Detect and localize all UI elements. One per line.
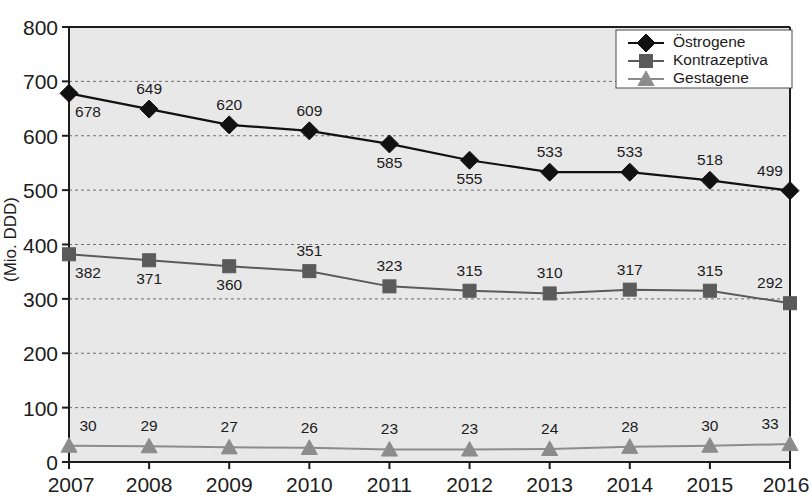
data-point-label: 315 — [457, 262, 483, 279]
data-point-label: 23 — [381, 420, 398, 437]
x-axis-tick-label: 2010 — [286, 473, 333, 496]
data-point-marker — [63, 248, 76, 261]
data-point-label: 351 — [296, 242, 322, 259]
x-axis-tick-label: 2012 — [446, 473, 493, 496]
data-point-label: 24 — [541, 420, 559, 437]
data-point-label: 23 — [461, 420, 478, 437]
legend-label: Gestagene — [673, 69, 749, 86]
x-axis-tick-label: 2009 — [206, 473, 253, 496]
legend-label: Kontrazeptiva — [673, 51, 768, 68]
data-point-label: 30 — [701, 417, 719, 434]
data-point-label: 678 — [75, 103, 101, 120]
y-axis-tick-label: 0 — [46, 451, 58, 474]
data-point-marker — [383, 280, 396, 293]
y-axis-tick-label: 200 — [23, 342, 58, 365]
x-axis-tick-label: 2011 — [367, 473, 412, 496]
y-axis-tick-label: 600 — [23, 125, 58, 148]
data-point-marker — [143, 254, 156, 267]
data-point-label: 609 — [296, 102, 322, 119]
data-point-label: 371 — [136, 270, 162, 287]
y-axis-tick-label: 300 — [23, 288, 58, 311]
y-axis-tick-label: 500 — [23, 179, 58, 202]
data-point-marker — [623, 283, 636, 296]
x-axis-tick-label: 2016 — [763, 473, 810, 496]
data-point-marker — [223, 260, 236, 273]
data-point-label: 533 — [617, 143, 643, 160]
y-axis-tick-label: 100 — [23, 397, 58, 420]
data-point-label: 315 — [697, 262, 723, 279]
y-axis-tick-label: 400 — [23, 234, 58, 257]
data-point-marker — [784, 297, 797, 310]
data-point-label: 518 — [697, 151, 723, 168]
legend-label: Östrogene — [673, 33, 745, 50]
data-point-marker — [543, 287, 556, 300]
x-axis-tick-label: 2007 — [48, 473, 95, 496]
y-axis-title: (Mio. DDD) — [1, 197, 20, 282]
data-point-label: 360 — [216, 276, 242, 293]
data-point-label: 33 — [761, 415, 778, 432]
x-axis-tick-label: 2015 — [687, 473, 734, 496]
data-point-label: 533 — [537, 143, 563, 160]
y-axis-tick-label: 800 — [23, 16, 58, 39]
data-point-marker — [303, 265, 316, 278]
data-point-label: 649 — [136, 80, 162, 97]
chart-container: 0100200300400500600700800(Mio. DDD)20072… — [0, 0, 811, 502]
line-chart: 0100200300400500600700800(Mio. DDD)20072… — [0, 0, 811, 502]
data-point-label: 30 — [79, 417, 97, 434]
x-axis-tick-label: 2013 — [526, 473, 573, 496]
data-point-label: 28 — [621, 418, 638, 435]
data-point-label: 323 — [377, 257, 403, 274]
data-point-label: 29 — [140, 417, 157, 434]
legend-marker-square — [640, 55, 653, 68]
x-axis-tick-label: 2008 — [126, 473, 173, 496]
data-point-label: 499 — [757, 162, 783, 179]
data-point-marker — [463, 284, 476, 297]
x-axis-tick-label: 2014 — [606, 473, 653, 496]
data-point-label: 27 — [221, 418, 238, 435]
data-point-label: 620 — [216, 96, 242, 113]
data-point-label: 292 — [757, 274, 783, 291]
legend: ÖstrogeneKontrazeptivaGestagene — [616, 30, 792, 88]
data-point-label: 555 — [457, 170, 483, 187]
data-point-label: 585 — [377, 154, 403, 171]
data-point-label: 26 — [301, 419, 318, 436]
data-point-label: 317 — [617, 261, 643, 278]
data-point-marker — [703, 284, 716, 297]
y-axis-tick-label: 700 — [23, 70, 58, 93]
data-point-label: 382 — [75, 264, 101, 281]
data-point-label: 310 — [537, 264, 563, 281]
